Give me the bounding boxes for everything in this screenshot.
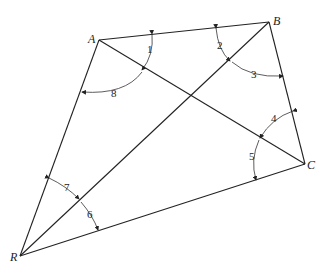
angle-label-2: 2: [217, 40, 223, 51]
segment-ac: [99, 40, 305, 164]
segment-ab: [99, 22, 269, 40]
angle-label-7: 7: [64, 182, 70, 193]
segment-ra: [20, 40, 99, 256]
diagram-lines: [0, 0, 327, 273]
angle-label-1: 1: [147, 44, 153, 55]
angle-label-6: 6: [87, 209, 93, 220]
angle-label-3: 3: [251, 69, 257, 80]
point-label-r: R: [10, 251, 17, 263]
segment-bc: [269, 22, 305, 164]
segment-rb: [20, 22, 269, 256]
angle-label-8: 8: [111, 88, 117, 99]
point-label-a: A: [88, 33, 95, 45]
point-label-b: B: [273, 15, 280, 27]
segment-cr: [20, 164, 305, 256]
point-label-c: C: [307, 159, 315, 171]
angle-label-4: 4: [271, 113, 277, 124]
angle-label-5: 5: [249, 151, 255, 162]
quadrilateral-diagram: A B C R 1 2 3 4 5 6 7 8: [0, 0, 327, 273]
